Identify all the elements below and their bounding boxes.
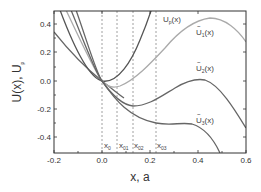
- plot-frame: [54, 11, 246, 153]
- label-u2: U2(x) ~: [196, 59, 214, 74]
- label-up: Up(x): [163, 15, 181, 25]
- svg-text:U3(x): U3(x): [196, 116, 214, 126]
- svg-text:U1(x): U1(x): [196, 28, 214, 38]
- y-tick-label: -0.2: [37, 105, 51, 114]
- x-tick-labels: -0.2 0.0 0.2 0.4 0.6: [47, 156, 252, 165]
- x-tick-label: -0.2: [47, 156, 61, 165]
- label-u3: U3(x) ~: [196, 111, 214, 126]
- x-ticks: [54, 11, 246, 153]
- x-tick-label: 0.6: [240, 156, 252, 165]
- y-tick-label: 0.0: [40, 77, 52, 86]
- curve-up: [60, 8, 152, 81]
- y-tick-labels: 0.4 0.2 0.0 -0.2 -0.4: [37, 20, 51, 142]
- label-x02: x02: [134, 141, 144, 151]
- y-tick-label: -0.4: [37, 133, 51, 142]
- x-axis-label: x, a: [130, 170, 150, 184]
- label-x03: x03: [157, 141, 167, 151]
- svg-text:U2(x): U2(x): [196, 64, 214, 74]
- chart: -0.2 0.0 0.2 0.4 0.6 0.4 0.2 0.0 -0.2 -0…: [0, 0, 261, 192]
- x-tick-label: 0.0: [96, 156, 108, 165]
- svg-text:~: ~: [197, 23, 201, 29]
- label-x01: x01: [119, 141, 129, 151]
- y-tick-label: 0.2: [40, 48, 52, 57]
- y-axis-label: U(x), Up: [10, 61, 25, 102]
- svg-text:~: ~: [197, 111, 201, 117]
- x-tick-label: 0.4: [192, 156, 204, 165]
- curve-left: [54, 32, 124, 98]
- curve-u2: [71, 10, 246, 128]
- label-x0: x0: [104, 141, 111, 151]
- y-tick-label: 0.4: [40, 20, 52, 29]
- label-u1: U1(x) ~: [196, 23, 214, 38]
- svg-text:U(x), Up: U(x), Up: [10, 61, 25, 102]
- svg-text:~: ~: [197, 59, 201, 65]
- x-tick-label: 0.2: [144, 156, 156, 165]
